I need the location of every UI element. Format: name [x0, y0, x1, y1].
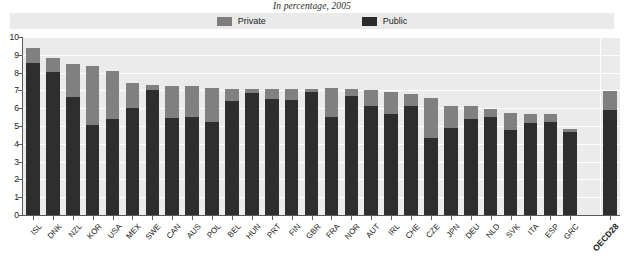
bar-segment-public [66, 97, 80, 215]
x-tick-label-can: CAN [165, 222, 183, 241]
x-tick-mark [451, 216, 452, 220]
bar-nld [484, 37, 498, 215]
y-tick-mark [18, 126, 22, 127]
bar-jpn [444, 37, 458, 215]
bar-segment-private [464, 106, 478, 118]
y-tick-mark [18, 144, 22, 145]
x-tick-label-oecd28: OECD28 [591, 222, 620, 253]
bar-segment-public [205, 122, 219, 215]
bar-segment-public [345, 96, 359, 215]
y-axis: 012345678910 [0, 33, 22, 215]
x-tick-label-svk: SVK [504, 222, 521, 240]
x-tick-mark [431, 216, 432, 220]
bar-segment-private [86, 66, 100, 126]
bar-segment-private [185, 86, 199, 117]
x-tick-mark [252, 216, 253, 220]
y-tick-mark [18, 162, 22, 163]
bar-nor [345, 37, 359, 215]
plot-area [23, 37, 620, 215]
bar-segment-private [146, 85, 160, 89]
bar-hun [245, 37, 259, 215]
bar-segment-private [126, 83, 140, 108]
y-tick-mark [18, 108, 22, 109]
bar-segment-private [165, 86, 179, 118]
bar-grc [563, 37, 577, 215]
bar-prt [265, 37, 279, 215]
x-tick-mark [550, 216, 551, 220]
x-tick-label-fra: FRA [325, 222, 342, 240]
bar-deu [464, 37, 478, 215]
legend-item-private: Private [217, 16, 266, 26]
x-tick-label-jpn: JPN [445, 222, 462, 239]
x-tick-label-prt: PRT [265, 222, 282, 240]
bar-segment-public [126, 108, 140, 215]
x-tick-label-aus: AUS [185, 222, 203, 240]
x-tick-label-grc: GRC [562, 222, 581, 241]
y-tick-mark [18, 215, 22, 216]
bar-irl [384, 37, 398, 215]
x-tick-label-cze: CZE [424, 222, 441, 240]
bar-segment-public [46, 72, 60, 215]
bar-aus [185, 37, 199, 215]
bar-segment-private [225, 89, 239, 101]
bar-segment-public [424, 138, 438, 215]
bar-segment-private [424, 98, 438, 139]
legend-item-public: Public [362, 16, 408, 26]
bar-oecd28 [603, 37, 617, 215]
x-tick-mark [312, 216, 313, 220]
x-tick-mark [491, 216, 492, 220]
bar-segment-public [106, 119, 120, 215]
bar-segment-public [464, 119, 478, 215]
bar-segment-private [46, 58, 60, 71]
x-tick-mark [192, 216, 193, 220]
x-tick-mark [33, 216, 34, 220]
x-tick-label-deu: DEU [463, 222, 481, 241]
bar-segment-private [384, 92, 398, 113]
bar-segment-private [504, 113, 518, 130]
chart-subtitle: In percentage, 2005 [0, 1, 624, 11]
bar-usa [106, 37, 120, 215]
bar-segment-public [444, 128, 458, 215]
bar-segment-private [26, 48, 40, 63]
bar-segment-public [245, 93, 259, 215]
x-tick-label-ita: ITA [527, 222, 542, 237]
x-tick-mark [511, 216, 512, 220]
x-tick-label-bel: BEL [226, 222, 243, 239]
x-tick-mark [331, 216, 332, 220]
bar-gbr [305, 37, 319, 215]
x-tick-mark [530, 216, 531, 220]
bar-segment-private [265, 89, 279, 100]
y-tick-mark [18, 179, 22, 180]
bar-segment-private [563, 129, 577, 133]
x-tick-mark [132, 216, 133, 220]
y-tick-mark [18, 90, 22, 91]
bar-segment-private [544, 114, 558, 121]
x-tick-label-esp: ESP [544, 222, 561, 240]
bar-segment-private [245, 89, 259, 93]
x-tick-mark [610, 216, 611, 220]
bar-segment-private [364, 90, 378, 106]
x-tick-label-dnk: DNK [46, 222, 64, 241]
x-tick-label-aut: AUT [365, 222, 382, 240]
x-tick-mark [570, 216, 571, 220]
plot-wrapper: 012345678910 ISLDNKNZLKORUSAMEXSWECANAUS… [0, 33, 624, 215]
bar-fin [285, 37, 299, 215]
bar-segment-public [325, 117, 339, 215]
x-tick-mark [411, 216, 412, 220]
bar-bel [225, 37, 239, 215]
x-tick-label-hun: HUN [244, 222, 262, 241]
x-tick-label-usa: USA [106, 222, 124, 240]
bar-segment-private [205, 88, 219, 122]
x-tick-label-nld: NLD [484, 222, 501, 240]
x-tick-label-pol: POL [205, 222, 222, 240]
x-tick-mark [73, 216, 74, 220]
bar-nzl [66, 37, 80, 215]
bar-segment-private [106, 71, 120, 119]
x-tick-label-swe: SWE [144, 222, 163, 242]
bar-segment-public [384, 114, 398, 215]
bar-segment-private [305, 89, 319, 93]
bar-esp [544, 37, 558, 215]
x-tick-mark [292, 216, 293, 220]
chart-legend: Private Public [10, 13, 614, 29]
x-tick-label-irl: IRL [387, 222, 402, 237]
